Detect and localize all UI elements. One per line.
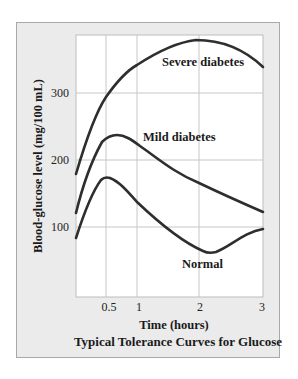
x-axis-label: Time (hours) <box>139 318 209 332</box>
x-tick-0-5: 0.5 <box>102 300 117 314</box>
y-axis-label: Blood-glucose level (mg/100 mL) <box>31 79 45 253</box>
x-tick-3: 3 <box>259 300 265 314</box>
x-tick-2: 2 <box>197 300 203 314</box>
mild-diabetes-label: Mild diabetes <box>143 130 216 144</box>
chart-title: Typical Tolerance Curves for Glucose <box>74 334 282 349</box>
y-tick-100: 100 <box>51 220 69 234</box>
x-tick-1: 1 <box>136 300 142 314</box>
normal-label: Normal <box>182 257 223 271</box>
glucose-tolerance-chart: Severe diabetes Mild diabetes Normal 300… <box>0 0 298 379</box>
y-tick-300: 300 <box>51 86 69 100</box>
y-tick-200: 200 <box>51 153 69 167</box>
severe-diabetes-label: Severe diabetes <box>162 55 244 69</box>
